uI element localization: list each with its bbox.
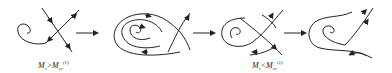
label-sup2: (1) [277,60,283,65]
label-sub2: cr [59,66,63,71]
panel-3-portrait [222,10,283,55]
panel-4-portrait [309,8,373,58]
panel-3-label: Ms<Mcr(1) [252,60,283,71]
label-base2: M [52,61,59,70]
label-sub2: cr [273,66,277,71]
panel-1-label: Ms>Mcr(1) [38,60,69,71]
label-sup2: (1) [63,60,69,65]
label-base: M [38,61,45,70]
panel-1-portrait [18,8,79,52]
panel-2-portrait [114,13,190,55]
label-base2: M [266,61,273,70]
label-base: M [252,61,259,70]
